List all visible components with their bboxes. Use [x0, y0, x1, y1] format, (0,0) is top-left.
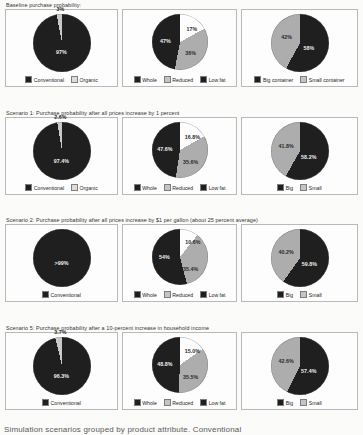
- pie-slice-label-big: 57.4%: [301, 368, 316, 374]
- pie-slice-label-small-container: 42%: [281, 34, 292, 40]
- pie-slice-label-low-fat: 16.8%: [185, 134, 200, 140]
- legend-swatch-icon: [71, 184, 78, 191]
- pie-slices: [271, 229, 329, 287]
- legend-swatch-icon: [25, 184, 32, 191]
- legend-item: Small: [300, 399, 321, 406]
- chart-panel-container-size: 58.2%41.8%BigSmall: [241, 117, 358, 195]
- legend-item: Whole: [134, 184, 157, 191]
- chart-legend: BigSmall: [274, 291, 324, 298]
- legend-label: Reduced: [172, 400, 193, 406]
- legend-item: Reduced: [164, 184, 193, 191]
- section-title: Baseline purchase probability:: [0, 2, 363, 9]
- pie-slice-label-conventional: >99%: [55, 260, 69, 266]
- pie-chart-milk-fat-level: 16.8%35.6%47.6%: [152, 122, 208, 178]
- chart-legend: ConventionalOrganic: [22, 184, 100, 191]
- legend-label: Big: [286, 400, 294, 406]
- legend-label: Whole: [142, 77, 157, 83]
- legend-item: Whole: [134, 76, 157, 83]
- pie-chart-container-size: 58%42%: [271, 14, 329, 72]
- pie-slices: [33, 122, 91, 180]
- chart-legend: BigSmall: [274, 399, 324, 406]
- legend-swatch-icon: [300, 76, 307, 83]
- document-page: Baseline purchase probability:97%3%Conve…: [0, 0, 363, 435]
- legend-label: Small: [309, 292, 322, 298]
- legend-label: Whole: [142, 292, 157, 298]
- chart-panel-row: 97.4%2.6%ConventionalOrganic16.8%35.6%47…: [0, 117, 363, 195]
- legend-item: Reduced: [164, 291, 193, 298]
- legend-item: Big container: [254, 76, 293, 83]
- legend-item: Reduced: [164, 76, 193, 83]
- legend-swatch-icon: [254, 76, 261, 83]
- chart-panel-milk-fat-level: 16.8%35.6%47.6%WholeReducedLow fat: [122, 117, 237, 195]
- legend-swatch-icon: [300, 399, 307, 406]
- legend-item: Small: [300, 291, 321, 298]
- legend-swatch-icon: [277, 184, 284, 191]
- legend-item: Conventional: [25, 184, 64, 191]
- pie-slice-label-reduced: 35.6%: [183, 159, 198, 165]
- chart-panel-milk-fat-level: 10.6%35.4%54%WholeReducedLow fat: [122, 224, 237, 302]
- pie-slice-label-low-fat: 17%: [186, 26, 197, 32]
- legend-item: Conventional: [25, 76, 64, 83]
- section-baseline: Baseline purchase probability:97%3%Conve…: [0, 2, 363, 87]
- legend-label: Small: [309, 185, 322, 191]
- pie-slice-label-big: 58.2%: [301, 154, 316, 160]
- legend-swatch-icon: [134, 76, 141, 83]
- pie-chart-milk-fat-level: 10.6%35.4%54%: [152, 229, 208, 285]
- legend-label: Low fat: [209, 185, 226, 191]
- chart-legend: Big containerSmall container: [251, 76, 347, 83]
- legend-label: Big: [286, 185, 294, 191]
- chart-legend: BigSmall: [274, 184, 324, 191]
- pie-chart-organic-vs-conventional: 97%3%: [33, 14, 91, 72]
- chart-panel-organic-vs-conventional: 96.3%3.7%Conventional: [5, 332, 118, 410]
- legend-swatch-icon: [134, 291, 141, 298]
- chart-panel-row: 97%3%ConventionalOrganic17%36%47%WholeRe…: [0, 9, 363, 87]
- pie-slice-label-reduced: 35.4%: [183, 266, 198, 272]
- legend-item: Big: [277, 291, 293, 298]
- legend-swatch-icon: [200, 184, 207, 191]
- chart-panel-row: >99%Conventional10.6%35.4%54%WholeReduce…: [0, 224, 363, 302]
- legend-item: Low fat: [200, 184, 225, 191]
- chart-panel-organic-vs-conventional: >99%Conventional: [5, 224, 118, 302]
- pie-slice-label-organic: 2.6%: [54, 114, 66, 120]
- legend-swatch-icon: [71, 76, 78, 83]
- legend-label: Conventional: [51, 400, 81, 406]
- legend-label: Low fat: [209, 292, 226, 298]
- pie-slice-label-low-fat: 15.0%: [185, 348, 200, 354]
- legend-label: Big: [286, 292, 294, 298]
- pie-chart-container-size: 58.2%41.8%: [271, 122, 329, 180]
- pie-slices: [271, 122, 329, 180]
- pie-slice-label-organic: 3.7%: [54, 329, 66, 335]
- pie-slice-label-big-container: 58%: [303, 45, 314, 51]
- legend-swatch-icon: [200, 399, 207, 406]
- chart-legend: WholeReducedLow fat: [131, 291, 229, 298]
- pie-chart-milk-fat-level: 15.0%35.5%48.8%: [152, 337, 208, 393]
- chart-legend: Conventional: [39, 399, 84, 406]
- legend-swatch-icon: [164, 291, 171, 298]
- chart-panel-row: 96.3%3.7%Conventional15.0%35.5%48.8%Whol…: [0, 332, 363, 410]
- legend-item: Reduced: [164, 399, 193, 406]
- chart-panel-container-size: 59.8%40.2%BigSmall: [241, 224, 358, 302]
- pie-slice-label-low-fat: 10.6%: [185, 239, 200, 245]
- legend-item: Small container: [300, 76, 344, 83]
- legend-item: Whole: [134, 291, 157, 298]
- chart-panel-milk-fat-level: 15.0%35.5%48.8%WholeReducedLow fat: [122, 332, 237, 410]
- pie-chart-container-size: 59.8%40.2%: [271, 229, 329, 287]
- pie-slices: [33, 229, 91, 287]
- legend-swatch-icon: [164, 184, 171, 191]
- legend-label: Conventional: [51, 292, 81, 298]
- chart-legend: Conventional: [39, 291, 84, 298]
- legend-item: Low fat: [200, 76, 225, 83]
- legend-item: Conventional: [42, 291, 81, 298]
- section-title: Scenario 2: Purchase probability after a…: [0, 217, 363, 224]
- legend-item: Whole: [134, 399, 157, 406]
- pie-slice-label-whole: 47.6%: [157, 146, 172, 152]
- legend-swatch-icon: [42, 291, 49, 298]
- pie-slice-label-big: 59.8%: [302, 261, 317, 267]
- pie-chart-milk-fat-level: 17%36%47%: [152, 14, 208, 70]
- legend-label: Organic: [80, 185, 98, 191]
- chart-panel-organic-vs-conventional: 97.4%2.6%ConventionalOrganic: [5, 117, 118, 195]
- pie-slice-label-whole: 54%: [159, 254, 170, 260]
- legend-swatch-icon: [300, 184, 307, 191]
- legend-swatch-icon: [164, 399, 171, 406]
- legend-label: Low fat: [209, 400, 226, 406]
